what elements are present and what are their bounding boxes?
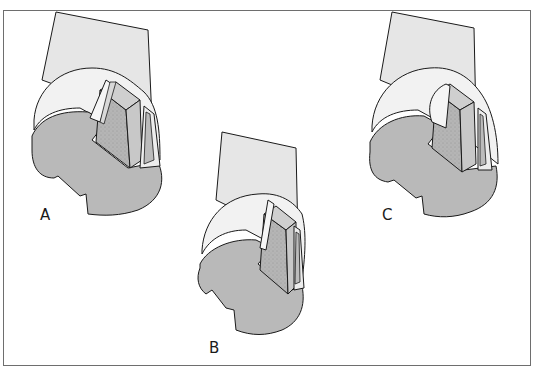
tool-bit-c-drawing bbox=[362, 10, 512, 220]
panel-label-c: C bbox=[382, 206, 392, 224]
tool-bit-c bbox=[362, 10, 512, 220]
tool-bit-a bbox=[20, 10, 170, 220]
panel-label-b: B bbox=[209, 339, 219, 357]
tool-bit-a-drawing bbox=[20, 10, 170, 220]
panel-label-a: A bbox=[40, 206, 50, 224]
tool-bit-b-drawing bbox=[196, 130, 346, 340]
tool-bit-b bbox=[196, 130, 346, 340]
